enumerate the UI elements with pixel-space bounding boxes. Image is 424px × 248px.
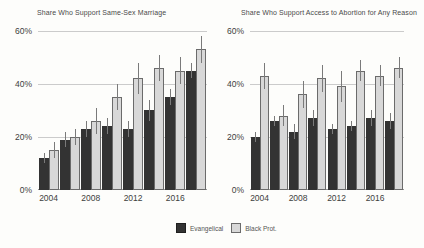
- y-axis-label: 0%: [1, 185, 32, 195]
- bar-evangelical-2008: [81, 129, 91, 190]
- error-bar: [96, 108, 97, 135]
- y-axis-label: 60%: [1, 26, 32, 36]
- bar-black-prot-2006: [70, 137, 80, 190]
- error-bar: [294, 124, 295, 140]
- error-bar: [380, 65, 381, 86]
- bar-black-prot-2014: [154, 68, 164, 190]
- bar-evangelical-2008: [289, 132, 298, 190]
- bar-black-prot-2006: [279, 116, 288, 190]
- error-bar: [283, 105, 284, 126]
- error-bar: [44, 153, 45, 164]
- chart-same-sex-marriage: Share Who Support Same-Sex Marriage 0%20…: [0, 0, 212, 215]
- bar-black-prot-2010: [317, 78, 326, 190]
- bar-evangelical-2014: [347, 126, 356, 190]
- error-bar: [138, 63, 139, 95]
- bar-evangelical-2018: [385, 121, 394, 190]
- error-bar: [274, 116, 275, 127]
- x-axis-label: 2004: [250, 193, 269, 203]
- error-bar: [313, 110, 314, 126]
- error-bar: [128, 121, 129, 137]
- bar-black-prot-2012: [133, 78, 143, 190]
- bar-black-prot-2008: [298, 94, 307, 190]
- error-bar: [255, 132, 256, 143]
- y-axis-label: 40%: [213, 79, 244, 89]
- error-bar: [399, 57, 400, 78]
- bar-evangelical-2018: [186, 71, 196, 191]
- error-bar: [75, 129, 76, 145]
- bar-evangelical-2014: [144, 110, 154, 190]
- bar-black-prot-2018: [394, 68, 403, 190]
- bar-evangelical-2010: [102, 126, 112, 190]
- error-bar: [54, 142, 55, 158]
- legend-label: Evangelical: [190, 225, 223, 232]
- error-bar: [303, 81, 304, 108]
- bar-black-prot-2018: [196, 49, 206, 190]
- bar-black-prot-2004: [260, 76, 269, 190]
- bar-black-prot-2014: [356, 71, 365, 191]
- error-bar: [360, 60, 361, 81]
- bar-evangelical-2016: [366, 118, 375, 190]
- error-bar: [332, 124, 333, 135]
- error-bar: [371, 110, 372, 126]
- error-bar: [201, 36, 202, 63]
- bar-evangelical-2006: [270, 121, 279, 190]
- x-axis-label: 2008: [289, 193, 308, 203]
- bar-evangelical-2004: [251, 137, 260, 190]
- y-axis-label: 20%: [213, 132, 244, 142]
- bar-evangelical-2012: [123, 129, 133, 190]
- black-prot-swatch-icon: [231, 223, 241, 233]
- chart-title: Share Who Support Same-Sex Marriage: [37, 9, 166, 16]
- plot-area: 0%20%40%60%2004200820122016: [250, 24, 404, 190]
- legend: Evangelical Black Prot.: [176, 223, 277, 233]
- y-axis-label: 20%: [1, 132, 32, 142]
- legend-item-black-prot: Black Prot.: [231, 223, 276, 233]
- x-axis-label: 2016: [366, 193, 385, 203]
- bar-black-prot-2010: [112, 97, 122, 190]
- gridline: [250, 31, 404, 32]
- error-bar: [390, 113, 391, 129]
- evangelical-swatch-icon: [176, 223, 186, 233]
- error-bar: [117, 84, 118, 111]
- bar-black-prot-2016: [175, 71, 185, 191]
- y-axis-label: 60%: [213, 26, 244, 36]
- x-axis-label: 2012: [327, 193, 346, 203]
- plot-area: 0%20%40%60%2004200820122016: [38, 24, 207, 190]
- error-bar: [149, 100, 150, 121]
- x-axis-label: 2012: [124, 193, 143, 203]
- bar-evangelical-2016: [165, 97, 175, 190]
- error-bar: [341, 71, 342, 103]
- error-bar: [180, 57, 181, 84]
- gridline: [38, 31, 207, 32]
- x-axis-label: 2004: [39, 193, 58, 203]
- error-bar: [170, 89, 171, 105]
- bar-evangelical-2010: [308, 118, 317, 190]
- error-bar: [86, 121, 87, 137]
- legend-item-evangelical: Evangelical: [176, 223, 223, 233]
- y-axis-label: 0%: [213, 185, 244, 195]
- bar-black-prot-2016: [375, 76, 384, 190]
- error-bar: [191, 63, 192, 79]
- error-bar: [264, 63, 265, 90]
- error-bar: [351, 121, 352, 132]
- error-bar: [322, 65, 323, 92]
- legend-label: Black Prot.: [245, 225, 276, 232]
- y-axis-label: 40%: [1, 79, 32, 89]
- error-bar: [65, 132, 66, 148]
- x-axis-label: 2008: [81, 193, 100, 203]
- bar-evangelical-2012: [328, 129, 337, 190]
- x-axis-label: 2016: [166, 193, 185, 203]
- chart-title: Share Who Support Access to Abortion for…: [241, 9, 417, 16]
- error-bar: [159, 55, 160, 82]
- error-bar: [107, 118, 108, 134]
- chart-abortion-support: Share Who Support Access to Abortion for…: [212, 0, 424, 215]
